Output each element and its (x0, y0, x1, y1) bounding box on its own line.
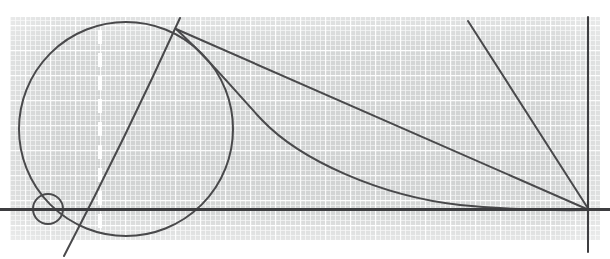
figure-canvas (0, 0, 610, 259)
geometry-drawing (0, 0, 610, 259)
